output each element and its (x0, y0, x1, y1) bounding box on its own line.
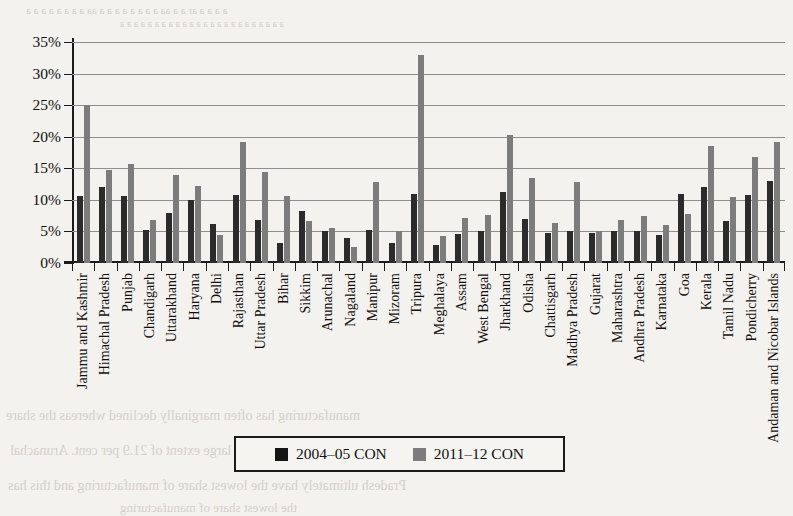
bar-group (518, 42, 540, 263)
x-axis-category: Tamil Nadu (718, 273, 740, 423)
bar-series-1 (121, 196, 127, 263)
x-axis-tick (339, 263, 340, 271)
x-axis-tick (94, 263, 95, 271)
bar-series-2 (396, 231, 402, 263)
x-axis-category: Chattisgarh (540, 273, 562, 423)
bar-series-2 (730, 197, 736, 263)
x-axis-tick (495, 263, 496, 271)
bar-series-1 (634, 231, 640, 263)
bar-group (228, 42, 250, 263)
x-axis-tick (696, 263, 697, 271)
bar-series-2 (708, 146, 714, 263)
bar-series-1 (143, 230, 149, 263)
x-axis-category-labels: Jammu and KashmirHimachal PradeshPunjabC… (72, 273, 785, 423)
x-axis-tick (607, 263, 608, 271)
x-axis-category-label: Andhra Pradesh (633, 273, 647, 363)
y-axis-tick-label: 20% (33, 128, 61, 146)
bar-group (250, 42, 272, 263)
x-axis-category-label: Pondicherry (745, 273, 759, 341)
bar-series-2 (128, 164, 134, 263)
y-axis-tick-label: 5% (40, 222, 61, 240)
bar-group (473, 42, 495, 263)
x-axis-tick (740, 263, 741, 271)
x-axis-category-label: Sikkim (299, 273, 313, 313)
bar-series-2 (240, 142, 246, 263)
bar-series-1 (589, 233, 595, 263)
bar-group (540, 42, 562, 263)
bar-series-1 (500, 192, 506, 263)
x-axis-category-label: Bihar (277, 273, 291, 304)
bar-series-1 (99, 187, 105, 263)
x-axis-category: Himachal Pradesh (94, 273, 116, 423)
bar-series-2 (173, 175, 179, 263)
x-axis-tick (562, 263, 563, 271)
x-axis-category: Gujarat (584, 273, 606, 423)
x-axis-category: Mizoram (384, 273, 406, 423)
bar-series-1 (322, 231, 328, 263)
bar-group (139, 42, 161, 263)
x-axis-tick (718, 263, 719, 271)
x-axis-category-label: Gujarat (589, 273, 603, 315)
bar-group (740, 42, 762, 263)
x-axis-category: Arunachal (317, 273, 339, 423)
bleed-through-text: the lowest share of manufacturing (120, 500, 297, 516)
bar-group (362, 42, 384, 263)
x-axis-category: Kerala (696, 273, 718, 423)
bar-series-1 (767, 181, 773, 263)
x-axis-category-label: Nagaland (344, 273, 358, 327)
bar-series-2 (440, 236, 446, 263)
x-axis-category: Haryana (183, 273, 205, 423)
bar-series-1 (522, 219, 528, 263)
legend-swatch-icon (275, 448, 288, 461)
bar-series-2 (552, 223, 558, 263)
bar-series-2 (507, 135, 513, 263)
bar-series-1 (366, 230, 372, 263)
bar-group (317, 42, 339, 263)
x-axis-category-label: Goa (678, 273, 692, 296)
x-axis-category-label: Tripura (410, 273, 424, 315)
bar-group (651, 42, 673, 263)
bar-series-1 (255, 220, 261, 263)
x-axis-category-label: Uttar Pradesh (254, 273, 268, 350)
legend-item-series-1: 2004–05 CON (275, 445, 387, 463)
x-axis-category-label: Tamil Nadu (722, 273, 736, 339)
x-axis-tick (674, 263, 675, 271)
y-axis-tick-label: 15% (33, 159, 61, 177)
x-axis-tick (139, 263, 140, 271)
bar-series-1 (277, 243, 283, 263)
x-axis-category: Goa (674, 273, 696, 423)
bar-series-2 (150, 220, 156, 263)
bar-series-1 (344, 238, 350, 263)
y-axis-tick-label: 25% (33, 96, 61, 114)
legend-swatch-icon (413, 448, 426, 461)
bar-series-1 (723, 221, 729, 263)
y-axis-tick (64, 105, 72, 106)
y-axis-tick (64, 263, 72, 264)
x-axis-tick (540, 263, 541, 271)
bar-series-2 (373, 182, 379, 263)
x-axis-category: Karnataka (651, 273, 673, 423)
x-axis-category-label: Manipur (366, 273, 380, 321)
x-axis-tick (763, 263, 764, 271)
x-axis-category: Maharashtra (607, 273, 629, 423)
bar-series-2 (774, 142, 780, 263)
bar-series-1 (188, 200, 194, 263)
bar-series-1 (745, 195, 751, 263)
bar-series-1 (389, 243, 395, 263)
bar-group (562, 42, 584, 263)
x-axis-category: Odisha (518, 273, 540, 423)
bar-series-1 (411, 194, 417, 263)
bar-group (674, 42, 696, 263)
bar-series-2 (284, 196, 290, 263)
y-axis-tick (64, 168, 72, 169)
bar-series-1 (233, 195, 239, 263)
x-axis-tick (72, 263, 73, 271)
x-axis-category-label: Himachal Pradesh (98, 273, 112, 375)
bar-series-1 (433, 245, 439, 263)
bar-groups (72, 42, 785, 263)
legend-item-series-2: 2011–12 CON (413, 445, 524, 463)
x-axis-category: Assam (451, 273, 473, 423)
x-axis-tick (651, 263, 652, 271)
bar-series-1 (455, 234, 461, 263)
y-axis-tick (64, 42, 72, 43)
